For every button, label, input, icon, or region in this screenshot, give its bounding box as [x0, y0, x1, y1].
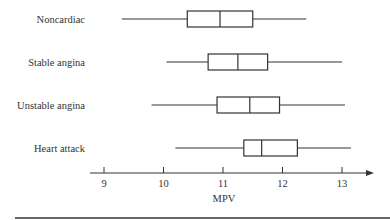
iqr-box	[217, 97, 279, 113]
x-axis-label: MPV	[213, 193, 236, 204]
x-axis: 910111213	[90, 167, 374, 189]
tick-label: 12	[277, 178, 288, 189]
category-label: Noncardiac	[37, 14, 86, 25]
boxes-group: NoncardiacStable anginaUnstable anginaHe…	[17, 11, 351, 156]
axis-arrow-icon	[366, 170, 374, 176]
tick-label: 10	[158, 178, 169, 189]
category-label: Heart attack	[34, 143, 86, 154]
category-label: Unstable angina	[17, 100, 85, 111]
iqr-box	[244, 140, 298, 156]
boxplot-chart: NoncardiacStable anginaUnstable anginaHe…	[0, 0, 390, 220]
tick-label: 11	[218, 178, 228, 189]
box-noncardiac: Noncardiac	[37, 11, 307, 27]
box-stable-angina: Stable angina	[28, 54, 342, 70]
box-heart-attack: Heart attack	[34, 140, 351, 156]
category-label: Stable angina	[28, 57, 85, 68]
box-unstable-angina: Unstable angina	[17, 97, 345, 113]
tick-label: 9	[101, 178, 106, 189]
tick-label: 13	[337, 178, 348, 189]
